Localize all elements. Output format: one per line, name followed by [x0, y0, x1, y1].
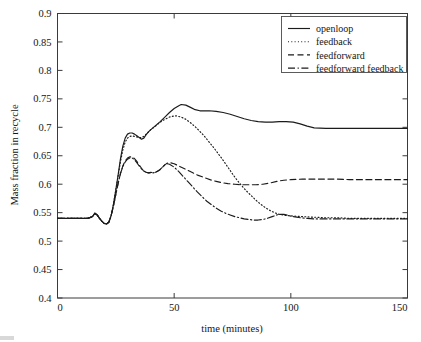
x-tick-label: 150: [392, 302, 408, 313]
y-axis-tick-labels: 0.40.450.50.550.60.650.70.750.80.850.9: [33, 8, 52, 304]
y-tick-label: 0.75: [33, 93, 51, 104]
y-tick-label: 0.65: [33, 150, 51, 161]
x-tick-label: 50: [169, 302, 180, 313]
x-tick-label: 0: [58, 302, 63, 313]
legend-label-feedforward: feedforward: [316, 50, 365, 61]
x-tick-label: 100: [283, 302, 299, 313]
series-openloop: [58, 105, 408, 224]
series-feedforward-feedback: [58, 158, 408, 224]
y-tick-label: 0.85: [33, 37, 51, 48]
scan-artifact: [0, 336, 14, 340]
legend-label-feedback: feedback: [316, 36, 352, 47]
y-tick-label: 0.9: [38, 8, 51, 19]
x-axis-tick-labels: 050100150: [58, 302, 408, 313]
y-tick-label: 0.8: [38, 65, 51, 76]
y-tick-label: 0.45: [33, 264, 51, 275]
y-axis-title: Mass fraction in recycle: [9, 104, 20, 206]
legend: openloopfeedbackfeedforwardfeedforward f…: [282, 17, 407, 74]
legend-label-openloop: openloop: [316, 23, 353, 34]
figure-container: 050100150 0.40.450.50.550.60.650.70.750.…: [0, 0, 421, 342]
data-series-group: [58, 105, 408, 224]
series-feedback: [58, 116, 408, 224]
y-tick-label: 0.6: [38, 179, 51, 190]
y-tick-label: 0.5: [38, 236, 51, 247]
y-tick-label: 0.55: [33, 207, 51, 218]
legend-label-feedforward-feedback: feedforward feedback: [316, 63, 403, 74]
y-tick-label: 0.4: [38, 293, 52, 304]
chart-svg: 050100150 0.40.450.50.550.60.650.70.750.…: [0, 0, 421, 342]
y-tick-label: 0.7: [38, 122, 51, 133]
x-axis-title: time (minutes): [201, 323, 263, 335]
series-feedforward: [58, 157, 408, 224]
